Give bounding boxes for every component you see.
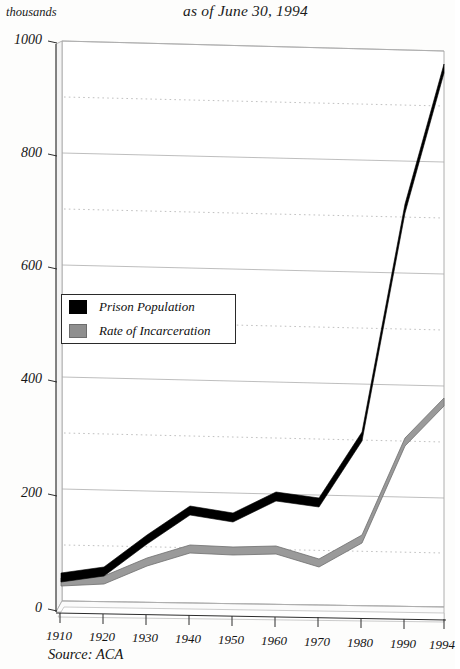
x-tick-label-1960: 1960 <box>252 633 296 649</box>
x-tick-label-1990: 1990 <box>381 636 425 652</box>
x-tick-label-1940: 1940 <box>166 631 210 647</box>
y-tick-label-0: 0 <box>2 600 42 616</box>
x-tick-label-1970: 1970 <box>295 634 339 650</box>
source-note: Source: ACA <box>48 646 123 663</box>
legend-label-prison-population: Prison Population <box>99 299 195 315</box>
legend-item-rate-of-incarceration: Rate of Incarceration <box>62 319 235 343</box>
legend-swatch-rate-of-incarceration <box>69 324 87 338</box>
y-tick-label-400: 400 <box>2 371 42 387</box>
y-axis <box>48 41 57 612</box>
y-tick-label-1000: 1000 <box>2 32 42 48</box>
legend-swatch-prison-population <box>69 300 87 314</box>
y-tick-label-200: 200 <box>2 485 42 501</box>
chart-legend: Prison Population Rate of Incarceration <box>61 294 236 344</box>
legend-item-prison-population: Prison Population <box>62 295 235 319</box>
x-tick-label-1920: 1920 <box>80 629 124 645</box>
x-tick-label-1910: 1910 <box>37 628 81 644</box>
x-tick-label-1950: 1950 <box>209 632 253 648</box>
x-tick-label-1994: 1994 <box>420 637 460 653</box>
x-tick-label-1930: 1930 <box>123 630 167 646</box>
y-tick-label-600: 600 <box>2 258 42 274</box>
y-tick-label-800: 800 <box>2 145 42 161</box>
x-tick-label-1980: 1980 <box>338 635 382 651</box>
legend-label-rate-of-incarceration: Rate of Incarceration <box>99 323 210 339</box>
